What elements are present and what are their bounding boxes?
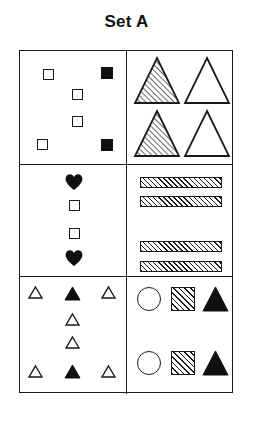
square-filled xyxy=(101,67,113,79)
triangle-filled xyxy=(63,285,82,302)
square-hatched xyxy=(171,287,195,311)
square-outline xyxy=(72,89,83,100)
triangle-outline xyxy=(64,312,81,327)
square-outline xyxy=(43,69,54,80)
matrix-cell-r1c2 xyxy=(126,51,234,164)
heart-filled xyxy=(65,173,83,191)
square-outline xyxy=(72,116,83,127)
triangle-outline xyxy=(183,56,231,105)
triangle-hatched xyxy=(133,109,181,158)
heart-filled xyxy=(65,249,83,267)
figure-page: Set A xyxy=(0,0,253,424)
shape-matrix-grid xyxy=(19,50,233,393)
matrix-cell-r2c2 xyxy=(126,165,234,276)
triangle-filled xyxy=(201,349,230,377)
square-filled xyxy=(101,139,113,151)
matrix-cell-r3c2 xyxy=(126,277,234,394)
square-hatched xyxy=(171,351,195,375)
triangle-filled xyxy=(63,363,82,380)
page-title: Set A xyxy=(0,12,253,32)
triangle-outline xyxy=(183,109,231,158)
triangle-outline xyxy=(100,285,117,300)
triangle-outline xyxy=(27,364,44,379)
triangle-outline xyxy=(100,364,117,379)
bar-hatched xyxy=(140,261,222,272)
square-outline xyxy=(69,200,80,211)
bar-hatched xyxy=(140,196,222,207)
bar-hatched xyxy=(140,177,222,188)
square-outline xyxy=(37,139,48,150)
triangle-filled xyxy=(201,285,230,313)
matrix-cell-r1c1 xyxy=(20,51,126,164)
matrix-row-1 xyxy=(20,51,232,164)
triangle-outline xyxy=(27,285,44,300)
triangle-outline xyxy=(64,335,81,350)
circle-outline xyxy=(137,351,161,375)
matrix-cell-r3c1 xyxy=(20,277,126,394)
bar-hatched xyxy=(140,241,222,252)
matrix-cell-r2c1 xyxy=(20,165,126,276)
circle-outline xyxy=(137,287,161,311)
matrix-row-3 xyxy=(20,276,232,394)
matrix-row-2 xyxy=(20,164,232,276)
triangle-hatched xyxy=(133,56,181,105)
square-outline xyxy=(69,228,80,239)
